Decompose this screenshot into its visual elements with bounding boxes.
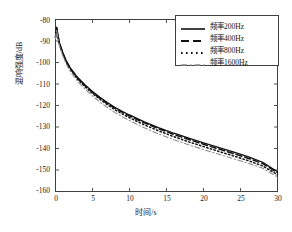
ytick-label: -140 [22, 144, 50, 153]
ytick-label: -110 [22, 80, 50, 89]
legend-label: 频率200Hz [210, 20, 244, 31]
ytick-label: -120 [22, 101, 50, 110]
xtick-label: 25 [228, 194, 254, 203]
legend-swatch-dashed-icon [180, 32, 206, 42]
ytick-label: -90 [22, 37, 50, 46]
ytick-label: -130 [22, 122, 50, 131]
legend-label: 频率400Hz [210, 32, 244, 43]
xtick-label: 20 [191, 194, 217, 203]
xtick-label: 30 [265, 194, 291, 203]
reverberation-intensity-chart: -80 -90 -100 -110 -120 -130 -140 -150 -1… [0, 0, 292, 232]
xtick-label: 15 [154, 194, 180, 203]
legend-item-1600hz: 频率1600Hz [180, 55, 248, 67]
y-axis-title: 混响强度/dB [13, 14, 24, 114]
x-axis-title: 时间/s [0, 206, 292, 217]
legend-label: 频率1600Hz [210, 56, 248, 67]
xtick-label: 10 [117, 194, 143, 203]
legend: 频率200Hz 频率400Hz 频率800Hz 频率1600Hz [175, 15, 279, 66]
legend-swatch-dashdot-icon [180, 56, 206, 66]
xtick-label: 5 [80, 194, 106, 203]
legend-item-800hz: 频率800Hz [180, 43, 244, 55]
legend-item-400hz: 频率400Hz [180, 31, 244, 43]
legend-label: 频率800Hz [210, 44, 244, 55]
ytick-label: -80 [22, 16, 50, 25]
xtick-label: 0 [43, 194, 69, 203]
legend-swatch-dotted-icon [180, 44, 206, 54]
ytick-label: -150 [22, 165, 50, 174]
legend-item-200hz: 频率200Hz [180, 19, 244, 31]
ytick-label: -100 [22, 58, 50, 67]
legend-swatch-solid-icon [180, 20, 206, 30]
